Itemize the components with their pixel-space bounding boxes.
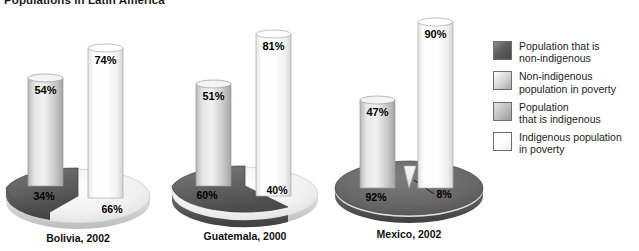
legend-label-line2: non-indigenous: [519, 52, 591, 64]
value-non-indigenous-guatemala: 60%: [196, 189, 218, 201]
legend-label-line2: that is indigenous: [519, 113, 601, 125]
value-non-indigenous-bolivia: 34%: [33, 190, 55, 202]
category-label-bolivia: Bolivia, 2002: [46, 232, 110, 244]
legend-item-indigenous-poverty: Indigenous population in poverty: [493, 131, 639, 155]
category-label-mexico: Mexico, 2002: [377, 228, 442, 240]
legend-label-line1: Indigenous population: [519, 131, 622, 143]
legend-label-line1: Population that is: [519, 40, 600, 52]
value-non-indigenous-poverty-mexico: 47%: [366, 106, 388, 118]
value-indigenous-guatemala: 40%: [266, 184, 288, 196]
legend-label-non-indigenous: Population that is non-indigenous: [519, 40, 600, 64]
legend-swatch-icon-non-indigenous: [493, 41, 512, 60]
legend-label-line2: in poverty: [519, 143, 565, 155]
column-indigenous-poverty-mexico: [418, 22, 453, 188]
legend-label-line1: Population: [519, 101, 569, 113]
value-indigenous-poverty-mexico: 90%: [424, 28, 446, 40]
chart-legend: Population that is non-indigenous Non-in…: [493, 40, 639, 162]
column-indigenous-poverty-bolivia: [88, 48, 123, 198]
value-indigenous-poverty-guatemala: 81%: [262, 40, 284, 52]
legend-label-indigenous-poverty: Indigenous population in poverty: [519, 131, 622, 155]
value-non-indigenous-mexico: 92%: [365, 191, 387, 203]
legend-label-line1: Non-indigenous: [519, 70, 593, 82]
value-indigenous-poverty-bolivia: 74%: [94, 54, 116, 66]
legend-label-line2: population in poverty: [519, 83, 616, 95]
chart-container: Populations in Latin America: [0, 0, 639, 251]
group-bolivia: 54% 74% 34% 66% Bolivia, 2002: [6, 44, 150, 244]
legend-swatch-icon-indigenous: [493, 102, 512, 121]
legend-item-indigenous: Population that is indigenous: [493, 101, 639, 125]
legend-label-non-indigenous-poverty: Non-indigenous population in poverty: [519, 70, 616, 94]
value-non-indigenous-poverty-bolivia: 54%: [34, 84, 56, 96]
legend-item-non-indigenous-poverty: Non-indigenous population in poverty: [493, 70, 639, 94]
value-non-indigenous-poverty-guatemala: 51%: [202, 90, 224, 102]
group-guatemala: 51% 81% 60% 40% Guatemala, 2000: [172, 30, 318, 242]
value-indigenous-bolivia: 66%: [101, 203, 123, 215]
legend-swatch-icon-indigenous-poverty: [493, 132, 512, 151]
value-indigenous-mexico: 8%: [436, 188, 452, 200]
column-indigenous-poverty-guatemala: [256, 34, 291, 196]
legend-swatch-icon-non-indigenous-poverty: [493, 71, 512, 90]
legend-item-non-indigenous: Population that is non-indigenous: [493, 40, 639, 64]
group-mexico: 47% 90% 92% 8% Mexico, 2002: [335, 18, 483, 240]
legend-label-indigenous: Population that is indigenous: [519, 101, 601, 125]
category-label-guatemala: Guatemala, 2000: [204, 230, 287, 242]
